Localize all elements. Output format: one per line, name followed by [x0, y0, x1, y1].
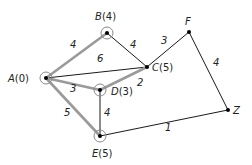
node-dot-icon — [145, 65, 149, 69]
edge-weight-a-c: 6 — [97, 53, 103, 64]
node-f — [187, 30, 191, 34]
edge-weight-d-e: 4 — [104, 107, 110, 118]
edge-e-z — [100, 110, 228, 136]
node-dot-icon — [105, 31, 109, 35]
node-label-e: E(5) — [92, 148, 113, 159]
edge-weight-c-d: 2 — [137, 77, 143, 88]
node-dot-icon — [98, 134, 102, 138]
node-c — [145, 65, 149, 69]
node-z — [226, 108, 230, 112]
node-b — [101, 27, 113, 39]
node-label-d: D(3) — [111, 86, 133, 97]
edge-weight-c-f: 3 — [161, 35, 167, 46]
node-label-c: C(5) — [152, 62, 173, 73]
node-labels: A(0)B(4)C(5)D(3)E(5)FZ — [7, 11, 241, 159]
graph-diagram: 4635424341 A(0)B(4)C(5)D(3)E(5)FZ — [0, 0, 252, 165]
edge-b-c — [107, 33, 147, 67]
edge-a-c — [46, 67, 147, 78]
node-label-z: Z — [232, 105, 241, 116]
edge-weight-f-z: 4 — [213, 57, 219, 68]
node-label-f: F — [185, 16, 191, 27]
node-label-b: B(4) — [95, 11, 116, 22]
edge-weight-labels: 4635424341 — [64, 35, 219, 133]
edge-weight-a-d: 3 — [70, 83, 76, 94]
edge-weight-e-z: 1 — [165, 122, 171, 133]
node-dot-icon — [98, 88, 102, 92]
edge-weight-a-b: 4 — [70, 39, 76, 50]
node-dot-icon — [226, 108, 230, 112]
node-dot-icon — [44, 76, 48, 80]
node-label-a: A(0) — [7, 73, 29, 84]
edge-weight-a-e: 5 — [64, 107, 70, 118]
edge-weight-b-c: 4 — [130, 39, 136, 50]
graph-svg: 4635424341 A(0)B(4)C(5)D(3)E(5)FZ — [0, 0, 252, 165]
node-dot-icon — [187, 30, 191, 34]
edge-f-z — [189, 32, 228, 110]
